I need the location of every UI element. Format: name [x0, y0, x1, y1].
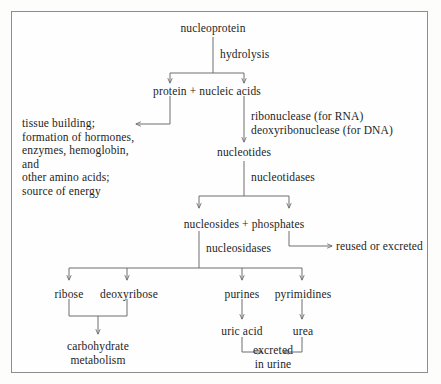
node-nucleosides-phosphates: nucleosides + phosphates: [184, 218, 305, 232]
tissue-building-line-1: tissue building;: [22, 117, 137, 131]
node-deoxyribose: deoxyribose: [100, 288, 158, 302]
carbohydrate-line-2: metabolism: [43, 354, 153, 368]
node-pyrimidines: pyrimidines: [275, 288, 332, 302]
excreted-line-2: in urine: [233, 358, 313, 372]
node-purines: purines: [225, 288, 260, 302]
node-nucleoprotein: nucleoprotein: [180, 22, 245, 36]
node-uric-acid: uric acid: [221, 325, 262, 339]
node-protein-nucleic-acids: protein + nucleic acids: [153, 85, 261, 99]
node-reused-or-excreted: reused or excreted: [336, 240, 423, 254]
edge-label-deoxyribonuclease: deoxyribonuclease (for DNA): [251, 124, 393, 138]
tissue-building-line-3: enzymes, hemoglobin, and: [22, 144, 137, 171]
carbohydrate-line-1: carbohydrate: [43, 340, 153, 354]
node-ribose: ribose: [54, 288, 83, 302]
node-excreted-in-urine: excreted in urine: [233, 344, 313, 371]
excreted-line-1: excreted: [233, 344, 313, 358]
tissue-building-line-4: other amino acids;: [22, 171, 137, 185]
edge-label-hydrolysis: hydrolysis: [220, 48, 269, 62]
tissue-building-line-5: source of energy: [22, 185, 137, 199]
node-nucleotides: nucleotides: [217, 146, 271, 160]
node-carbohydrate-metabolism: carbohydrate metabolism: [43, 340, 153, 367]
diagram-canvas: nucleoprotein hydrolysis protein + nucle…: [0, 0, 441, 384]
edge-label-nucleosidases: nucleosidases: [206, 242, 271, 256]
edge-label-nucleotidases: nucleotidases: [251, 171, 315, 185]
node-urea: urea: [293, 325, 313, 339]
tissue-building-line-2: formation of hormones,: [22, 131, 137, 145]
node-tissue-building: tissue building; formation of hormones, …: [22, 117, 137, 198]
edge-label-ribonuclease: ribonuclease (for RNA): [251, 110, 364, 124]
